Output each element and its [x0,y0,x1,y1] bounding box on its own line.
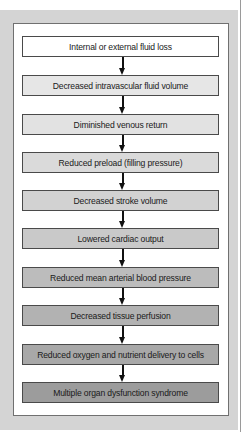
arrow-down-icon [119,57,126,75]
step-fluid-loss: Internal or external fluid loss [22,36,219,57]
step-decreased-stroke-volume: Decreased stroke volume [22,190,219,211]
arrow-down-icon [119,173,126,190]
step-reduced-oxygen-delivery: Reduced oxygen and nutrient delivery to … [22,344,219,365]
step-mods: Multiple organ dysfunction syndrome [22,382,219,403]
step-diminished-venous-return: Diminished venous return [22,114,219,135]
arrow-down-icon [119,211,126,228]
arrow-down-icon [119,96,126,114]
page-rule [240,0,241,432]
step-decreased-tissue-perfusion: Decreased tissue perfusion [22,305,219,326]
step-decreased-intravascular-volume: Decreased intravascular fluid volume [22,75,219,96]
step-reduced-map: Reduced mean arterial blood pressure [22,267,219,288]
arrow-down-icon [119,365,126,382]
arrow-down-icon [119,326,126,344]
arrow-down-icon [119,288,126,305]
step-lowered-cardiac-output: Lowered cardiac output [22,228,219,249]
step-reduced-preload: Reduced preload (filling pressure) [22,152,219,173]
arrow-down-icon [119,135,126,152]
arrow-down-icon [119,249,126,267]
